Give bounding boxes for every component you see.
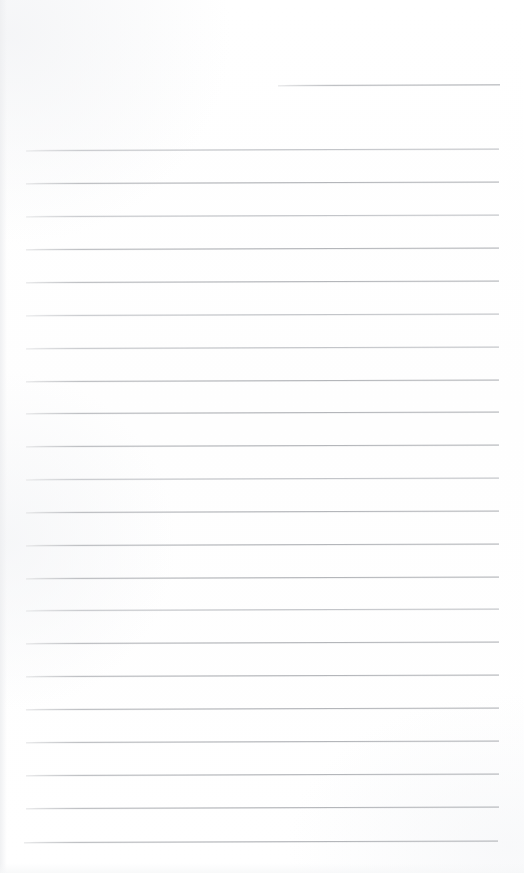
rule-line	[26, 774, 499, 776]
rule-line	[26, 445, 499, 447]
rule-line	[26, 478, 499, 480]
rule-line	[26, 675, 499, 677]
notepad-page	[0, 0, 524, 873]
rule-line	[26, 380, 499, 382]
rule-line	[26, 248, 499, 250]
rule-line	[26, 215, 499, 217]
header-rule-line	[278, 84, 500, 86]
rule-line	[26, 314, 499, 316]
rule-line	[26, 741, 499, 743]
rule-line	[26, 347, 499, 349]
rule-line	[26, 577, 499, 579]
ruled-line-group	[0, 0, 524, 873]
rule-line	[26, 642, 499, 644]
rule-line	[26, 412, 499, 414]
rule-line	[26, 609, 499, 611]
rule-line	[26, 281, 499, 283]
rule-line	[26, 182, 499, 184]
rule-line	[26, 708, 499, 710]
rule-line	[26, 149, 499, 151]
rule-line	[26, 511, 499, 513]
rule-line	[26, 544, 499, 546]
rule-line	[24, 841, 498, 843]
rule-line	[26, 807, 499, 809]
